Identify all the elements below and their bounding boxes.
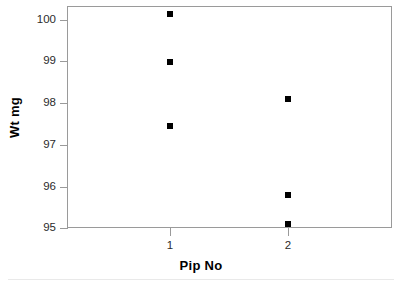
x-axis-label-2: 2 [268, 240, 308, 252]
data-point-marker [167, 59, 173, 65]
x-axis-label-1: 1 [150, 240, 190, 252]
y-axis-label-97: 97 [22, 139, 56, 151]
y-axis-tick-97 [60, 145, 68, 146]
scan-line-artifact [8, 279, 394, 280]
scatter-chart: Wt mg 100 99 98 97 96 95 1 2 Pip No [0, 0, 402, 284]
plot-area-frame [67, 6, 392, 228]
x-axis-tick-2 [288, 228, 289, 236]
y-axis-label-96: 96 [22, 181, 56, 193]
data-point-marker [285, 221, 291, 227]
x-axis-title: Pip No [0, 258, 402, 273]
data-point-marker [285, 192, 291, 198]
data-point-marker [167, 11, 173, 17]
y-axis-label-100: 100 [22, 14, 56, 26]
data-point-marker [285, 96, 291, 102]
y-axis-tick-98 [60, 103, 68, 104]
data-point-marker [167, 123, 173, 129]
y-axis-title-container: Wt mg [2, 0, 28, 234]
y-axis-title: Wt mg [8, 96, 23, 137]
y-axis-tick-96 [60, 187, 68, 188]
y-axis-label-98: 98 [22, 97, 56, 109]
y-axis-tick-99 [60, 61, 68, 62]
y-axis-label-95: 95 [22, 222, 56, 234]
y-axis-tick-100 [60, 20, 68, 21]
x-axis-tick-1 [170, 228, 171, 236]
y-axis-label-99: 99 [22, 55, 56, 67]
y-axis-tick-95 [60, 228, 68, 229]
